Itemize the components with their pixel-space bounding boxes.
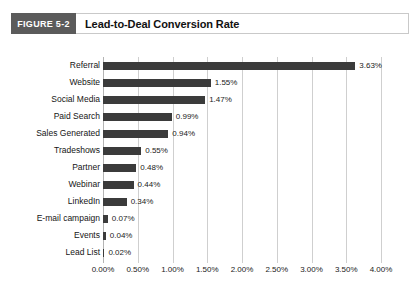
bar-row[interactable]: 0.44% [103,176,381,193]
x-tick-label: 0.50% [126,265,149,274]
bar-row[interactable]: 0.02% [103,244,381,261]
x-axis-tick-labels: 0.00%0.50%1.00%1.50%2.00%2.50%3.00%3.50%… [103,263,381,279]
bar[interactable] [103,79,211,87]
bar[interactable] [103,249,104,257]
figure-header: FIGURE 5-2 Lead-to-Deal Conversion Rate [11,13,409,34]
category-label: Lead List [66,244,101,261]
bar-row[interactable]: 0.07% [103,210,381,227]
category-label: Website [69,74,100,91]
category-label: Partner [72,159,100,176]
bar-row[interactable]: 3.63% [103,57,381,74]
category-label: Tradeshows [54,142,100,159]
figure-title-box: Lead-to-Deal Conversion Rate [76,13,409,34]
bar-value-label: 3.63% [359,62,382,70]
bar-row[interactable]: 0.48% [103,159,381,176]
gridline [381,57,382,263]
category-label: E-mail campaign [37,210,100,227]
bar-value-label: 0.44% [138,181,161,189]
bar-value-label: 1.55% [215,79,238,87]
bar-value-label: 0.02% [108,249,131,257]
bar-value-label: 1.47% [209,96,232,104]
page-title: Lead-to-Deal Conversion Rate [85,18,239,30]
bar-row[interactable]: 0.55% [103,142,381,159]
category-label: Events [74,227,100,244]
bar-value-label: 0.04% [110,232,133,240]
category-label: Paid Search [54,108,100,125]
category-label: Social Media [51,91,100,108]
bar-row[interactable]: 1.47% [103,91,381,108]
x-tick-label: 3.50% [335,265,358,274]
x-tick-label: 0.00% [92,265,115,274]
x-tick-label: 3.00% [300,265,323,274]
bar-row[interactable]: 0.04% [103,227,381,244]
category-label: Sales Generated [36,125,100,142]
bar[interactable] [103,164,136,172]
bar-row[interactable]: 0.34% [103,193,381,210]
bar-value-label: 0.94% [172,130,195,138]
x-tick-label: 2.00% [231,265,254,274]
bar-value-label: 0.07% [112,215,135,223]
plot-area: 3.63%1.55%1.47%0.99%0.94%0.55%0.48%0.44%… [103,57,381,263]
bar[interactable] [103,130,168,138]
bar-row[interactable]: 0.99% [103,108,381,125]
bar-value-label: 0.55% [145,147,168,155]
bar[interactable] [103,62,355,70]
x-tick-label: 4.00% [370,265,393,274]
bar[interactable] [103,113,172,121]
category-axis-labels: ReferralWebsiteSocial MediaPaid SearchSa… [0,57,100,263]
bar-row[interactable]: 1.55% [103,74,381,91]
category-label: Webinar [69,176,101,193]
x-tick-label: 1.50% [196,265,219,274]
figure-number-badge: FIGURE 5-2 [11,13,76,34]
bar-chart: ReferralWebsiteSocial MediaPaid SearchSa… [0,47,420,287]
bar[interactable] [103,147,141,155]
x-tick-label: 1.00% [161,265,184,274]
x-tick-label: 2.50% [265,265,288,274]
bar-value-label: 0.99% [176,113,199,121]
bar-value-label: 0.34% [131,198,154,206]
bar-row[interactable]: 0.94% [103,125,381,142]
bar[interactable] [103,198,127,206]
bar[interactable] [103,181,134,189]
bar[interactable] [103,215,108,223]
bar[interactable] [103,96,205,104]
category-label: Referral [70,57,100,74]
bar-value-label: 0.48% [140,164,163,172]
category-label: LinkedIn [68,193,100,210]
bar[interactable] [103,232,106,240]
